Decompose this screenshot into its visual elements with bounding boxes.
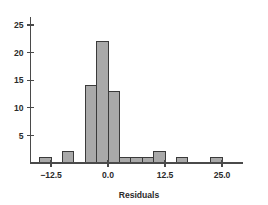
histogram-bar (142, 157, 153, 163)
histogram-bar (131, 157, 142, 163)
y-axis-tick-label: 10 (14, 103, 24, 113)
y-axis-tick-label: 5 (19, 131, 24, 141)
histogram-bar (154, 152, 165, 163)
histogram-svg: 510152025 −12.50.012.525.0 Residuals (0, 0, 268, 205)
x-axis-tick-label: −12.5 (40, 170, 62, 180)
histogram-bar (85, 86, 96, 163)
histogram-bar (108, 91, 119, 163)
histogram-chart: 510152025 −12.50.012.525.0 Residuals (0, 0, 268, 205)
y-axis-tick-label: 20 (14, 48, 24, 58)
histogram-bar (40, 157, 51, 163)
histogram-bar (62, 152, 73, 163)
axes-group (30, 17, 242, 163)
bars-group (40, 42, 222, 163)
x-axis-tick-label: 0.0 (102, 170, 114, 180)
y-axis-tick-label: 15 (14, 75, 24, 85)
x-axis-tick-label: 12.5 (157, 170, 174, 180)
histogram-bar (119, 157, 130, 163)
x-axis-title: Residuals (119, 190, 160, 200)
y-axis-tick-label: 25 (14, 20, 24, 30)
histogram-bar (211, 157, 222, 163)
histogram-bar (97, 42, 108, 163)
histogram-bar (176, 157, 187, 163)
x-axis-tick-label: 25.0 (214, 170, 231, 180)
